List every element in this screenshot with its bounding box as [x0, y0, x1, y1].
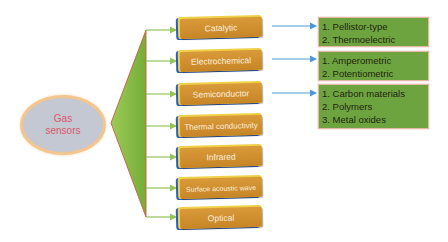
- category-label: Semiconductor: [180, 83, 263, 105]
- detail-item: 1. Carbon materials: [322, 87, 425, 100]
- category-label: Surface acoustic wave: [180, 177, 263, 199]
- root-label-line2: sensors: [45, 125, 80, 137]
- category-thermal-conductivity: Thermal conductivity: [176, 113, 263, 138]
- detail-item: 3. Metal oxides: [322, 113, 425, 126]
- category-optical: Optical: [176, 205, 263, 230]
- category-catalytic: Catalytic: [176, 15, 263, 40]
- diagram-canvas: Gas sensors Catalytic Electrochemical Se…: [0, 0, 448, 242]
- category-label: Catalytic: [180, 17, 263, 39]
- category-label: Electrochemical: [180, 50, 263, 72]
- category-label: Thermal conductivity: [180, 115, 263, 137]
- details-semiconductor: 1. Carbon materials 2. Polymers 3. Metal…: [318, 84, 429, 129]
- detail-item: 1. Pellistor-type: [322, 20, 425, 33]
- root-label-line1: Gas: [54, 113, 72, 125]
- detail-item: 2. Potentiometric: [322, 67, 425, 80]
- details-electrochemical: 1. Amperometric 2. Potentiometric: [318, 51, 429, 81]
- category-semiconductor: Semiconductor: [176, 81, 263, 106]
- category-label: Optical: [180, 207, 263, 229]
- detail-item: 1. Amperometric: [322, 54, 425, 67]
- category-surface-acoustic-wave: Surface acoustic wave: [176, 175, 263, 200]
- root-node-gas-sensors: Gas sensors: [20, 95, 106, 155]
- detail-item: 2. Polymers: [322, 100, 425, 113]
- category-electrochemical: Electrochemical: [176, 48, 263, 73]
- category-infrared: Infrared: [176, 144, 263, 169]
- details-catalytic: 1. Pellistor-type 2. Thermoelectric: [318, 17, 429, 47]
- category-label: Infrared: [180, 146, 263, 168]
- detail-item: 2. Thermoelectric: [322, 33, 425, 46]
- bracket-triangle: [111, 30, 146, 217]
